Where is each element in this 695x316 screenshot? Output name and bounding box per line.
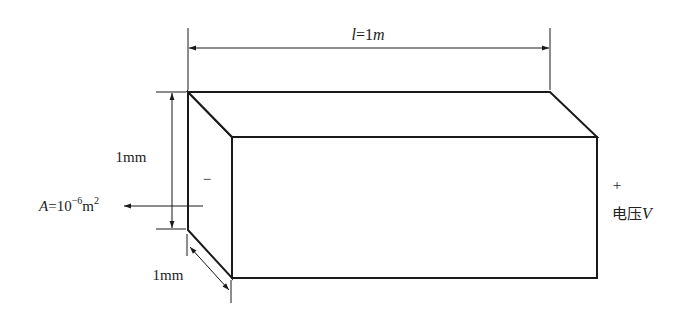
height-label: 1mm — [116, 149, 147, 165]
minus-sign: − — [203, 171, 211, 187]
height-dimension — [156, 92, 186, 229]
front-face — [232, 137, 597, 278]
voltage-label: 电压V — [612, 205, 654, 223]
depth-label: 1mm — [153, 267, 184, 283]
length-label: l=1m — [351, 26, 384, 43]
conductor-diagram: l=1m 1mm 1mm A=10−6m2 − + 电压V — [0, 0, 695, 316]
top-face — [188, 92, 597, 137]
plus-sign: + — [613, 177, 621, 193]
area-label: A=10−6m2 — [38, 195, 99, 214]
conductor-bar — [188, 92, 597, 278]
